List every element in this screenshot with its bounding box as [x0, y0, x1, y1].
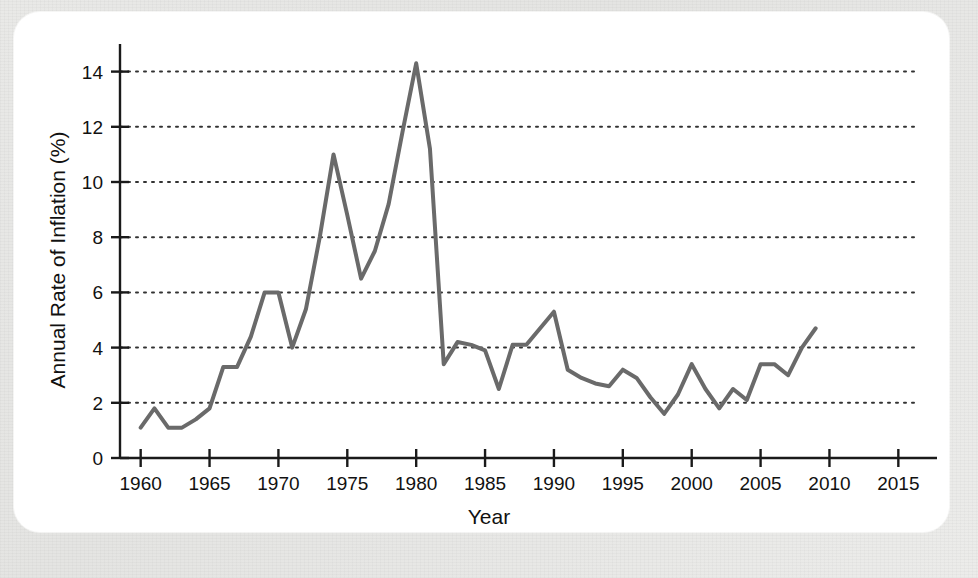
- x-ticklabel-group: 1960196519701975198019851990199520002005…: [120, 473, 920, 494]
- y-ticklabel-0: 0: [92, 448, 103, 469]
- x-ticklabel-2005: 2005: [739, 473, 781, 494]
- y-ticklabel-4: 4: [92, 338, 103, 359]
- y-ticklabel-2: 2: [92, 393, 103, 414]
- x-ticklabel-2010: 2010: [808, 473, 850, 494]
- inflation-line-chart: 02468101214 1960196519701975198019851990…: [14, 12, 949, 532]
- chart-panel: 02468101214 1960196519701975198019851990…: [14, 12, 949, 532]
- y-ticklabel-group: 02468101214: [82, 62, 104, 469]
- y-ticklabel-14: 14: [82, 62, 104, 83]
- scanned-page-background: 02468101214 1960196519701975198019851990…: [0, 0, 978, 578]
- y-axis-title: Annual Rate of Inflation (%): [46, 90, 70, 430]
- x-ticklabel-2000: 2000: [671, 473, 713, 494]
- y-axis-title-text: Annual Rate of Inflation (%): [46, 132, 69, 389]
- x-ticklabel-1980: 1980: [395, 473, 437, 494]
- x-ticklabel-1985: 1985: [464, 473, 506, 494]
- x-ticklabel-1990: 1990: [533, 473, 575, 494]
- y-ticklabel-10: 10: [82, 172, 103, 193]
- x-ticklabel-1960: 1960: [120, 473, 162, 494]
- y-ticklabel-12: 12: [82, 117, 103, 138]
- y-ticklabel-8: 8: [92, 227, 103, 248]
- x-ticklabel-1995: 1995: [602, 473, 644, 494]
- x-axis-title-text: Year: [468, 505, 510, 528]
- x-ticklabel-2015: 2015: [877, 473, 919, 494]
- x-ticklabel-1970: 1970: [257, 473, 299, 494]
- axis-group: [120, 44, 937, 458]
- y-ticklabel-6: 6: [92, 282, 103, 303]
- x-ticklabel-1975: 1975: [326, 473, 368, 494]
- x-ticklabel-1965: 1965: [188, 473, 230, 494]
- inflation-data-line: [141, 63, 816, 427]
- x-axis-title: Year: [0, 505, 978, 529]
